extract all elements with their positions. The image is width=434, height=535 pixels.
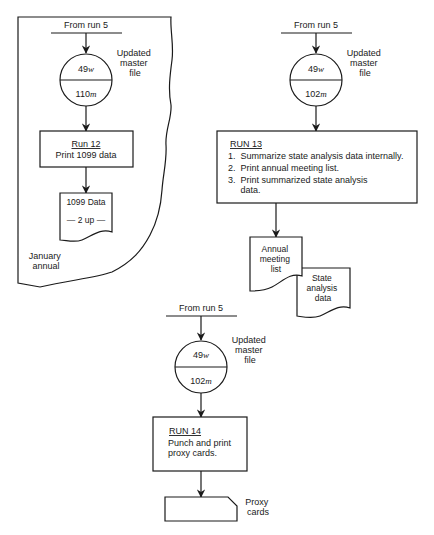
process-box-run-14: RUN 14 Punch and print proxy cards. [153,417,247,471]
source-label: From run 5 [64,20,108,30]
panel-run-12: From run 5 49w 110m Updated master file … [18,17,173,287]
svg-text:1. Summarize state analysis d: 1. Summarize state analysis data interna… [228,151,403,161]
svg-text:RUN 13: RUN 13 [230,139,262,149]
svg-text:— 2 up —: — 2 up — [67,215,106,225]
svg-text:RUN 14: RUN 14 [169,426,201,436]
storage-disk: 49w 110m [60,54,112,106]
panel-run-13: From run 5 49w 102m Updated master file … [217,20,417,318]
svg-text:proxy cards.: proxy cards. [168,448,217,458]
svg-text:49w: 49w [193,350,209,360]
source-label: From run 5 [294,20,338,30]
storage-label: Updated master file [347,48,384,78]
svg-text:data.: data. [228,185,261,195]
source-label: From run 5 [179,303,223,313]
svg-text:110m: 110m [76,89,97,99]
proxy-cards-label: Proxy cards [245,497,271,517]
svg-text:Print 1099 data: Print 1099 data [55,150,116,160]
svg-text:2. Print annual meeting list.: 2. Print annual meeting list. [228,163,339,173]
svg-text:1099 Data: 1099 Data [66,197,105,207]
document-1099-data: 1099 Data — 2 up — [60,193,112,241]
storage-disk: 49w 102m [290,54,342,106]
process-box-run-13: RUN 13 1. Summarize state analysis data … [217,131,417,203]
flowchart-canvas: From run 5 49w 110m Updated master file … [0,0,434,535]
document-annual-meeting-list: Annual meeting list [250,237,302,291]
frame-note: January annual [29,251,64,271]
svg-text:49w: 49w [78,64,94,74]
storage-disk: 49w 102m [175,341,227,393]
svg-text:102m: 102m [190,376,212,386]
svg-text:Run 12: Run 12 [71,139,100,149]
panel-run-14: From run 5 49w 102m Updated master file … [153,303,271,521]
storage-label: Updated master file [232,335,269,365]
svg-text:102m: 102m [305,89,327,99]
punched-card-proxy-cards [165,497,237,521]
svg-text:49w: 49w [308,64,324,74]
svg-text:3. Print summarized state ana: 3. Print summarized state analysis [228,175,368,185]
process-box-run-12: Run 12 Print 1099 data [40,131,133,167]
storage-label: Updated master file [117,48,154,78]
svg-text:Punch and print: Punch and print [168,438,232,448]
document-state-analysis-data: State analysis data [297,268,350,318]
